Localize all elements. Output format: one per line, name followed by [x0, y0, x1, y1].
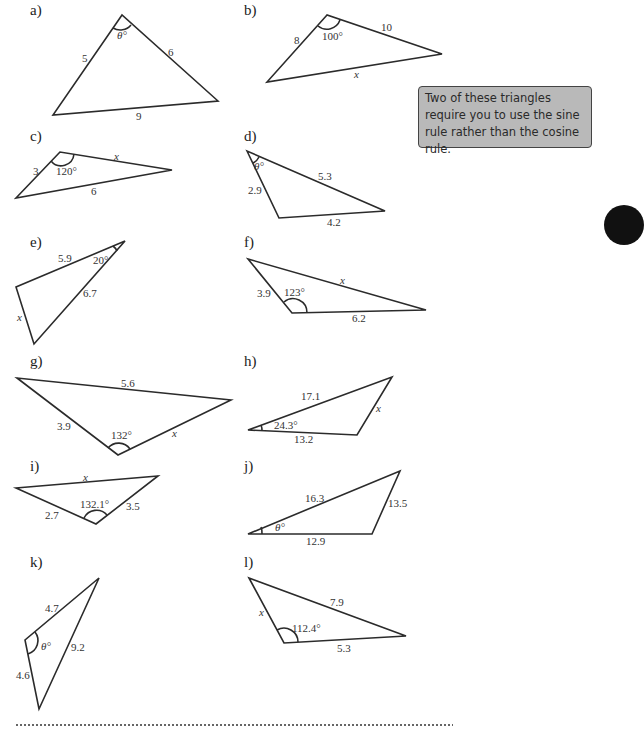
side-a-1: 5: [82, 52, 88, 64]
angle-e: 20°: [93, 254, 108, 266]
triangle-k: [25, 578, 99, 709]
side-c-3: 6: [91, 185, 97, 197]
side-k-2: 9.2: [71, 641, 85, 653]
side-k-3: 4.6: [16, 669, 30, 681]
side-j-1: 16.3: [305, 492, 325, 504]
side-l-2: 7.9: [330, 596, 344, 608]
angle-i: 132.1°: [80, 498, 109, 510]
chapter-tab-marker: [604, 205, 644, 245]
side-l-3: 5.3: [337, 642, 351, 654]
angle-b: 100°: [322, 30, 343, 42]
dotted-divider: [15, 724, 453, 726]
side-f-3: 6.2: [352, 312, 366, 324]
side-a-3: 9: [136, 110, 142, 122]
angle-a: θ°: [117, 29, 127, 41]
side-c-2: x: [113, 150, 119, 162]
triangle-d: [247, 151, 385, 218]
side-k-1: 4.7: [45, 602, 59, 614]
side-b-2: 10: [381, 21, 393, 33]
sine-rule-hint-box: Two of these triangles require you to us…: [418, 86, 592, 148]
angle-l: 112.4°: [292, 622, 321, 634]
side-f-2: x: [339, 274, 345, 286]
side-j-2: 12.9: [306, 535, 326, 547]
triangle-l: [249, 578, 406, 643]
side-l-1: x: [258, 606, 264, 618]
side-e-1: 5.9: [58, 252, 72, 264]
angle-f: 123°: [284, 286, 305, 298]
angle-arc-j: [261, 527, 262, 534]
side-h-2: 13.2: [294, 433, 313, 445]
side-d-1: 2.9: [248, 184, 262, 196]
side-d-2: 5.3: [318, 170, 332, 182]
side-i-3: 3.5: [126, 500, 140, 512]
side-b-3: x: [353, 68, 359, 80]
side-h-3: x: [375, 402, 381, 414]
angle-k: θ°: [41, 640, 51, 652]
side-j-3: 13.5: [388, 497, 408, 509]
side-e-3: x: [16, 311, 22, 323]
angle-arc-g: [108, 443, 130, 449]
angle-d: θ°: [254, 160, 264, 172]
side-g-2: 3.9: [57, 420, 71, 432]
triangle-h: [248, 377, 392, 435]
triangle-f: [248, 259, 426, 313]
angle-j: θ°: [275, 521, 285, 533]
side-f-1: 3.9: [257, 287, 271, 299]
side-i-2: 2.7: [45, 509, 59, 521]
side-h-1: 17.1: [301, 390, 320, 402]
angle-c: 120°: [56, 165, 77, 177]
side-g-1: 5.6: [121, 377, 135, 389]
side-i-1: x: [82, 471, 88, 483]
side-g-3: x: [171, 427, 177, 439]
angle-arc-i: [84, 510, 107, 518]
side-b-1: 8: [294, 34, 300, 46]
angle-h: 24.3°: [274, 419, 298, 431]
angle-arc-e: [113, 246, 117, 251]
angle-arc-c: [51, 154, 74, 166]
angle-g: 132°: [111, 429, 132, 441]
triangle-a: [53, 15, 218, 115]
side-a-2: 6: [168, 46, 174, 58]
side-c-1: 3: [33, 165, 39, 177]
side-e-2: 6.7: [83, 287, 97, 299]
side-d-3: 4.2: [327, 216, 341, 228]
angle-arc-f: [284, 299, 307, 313]
